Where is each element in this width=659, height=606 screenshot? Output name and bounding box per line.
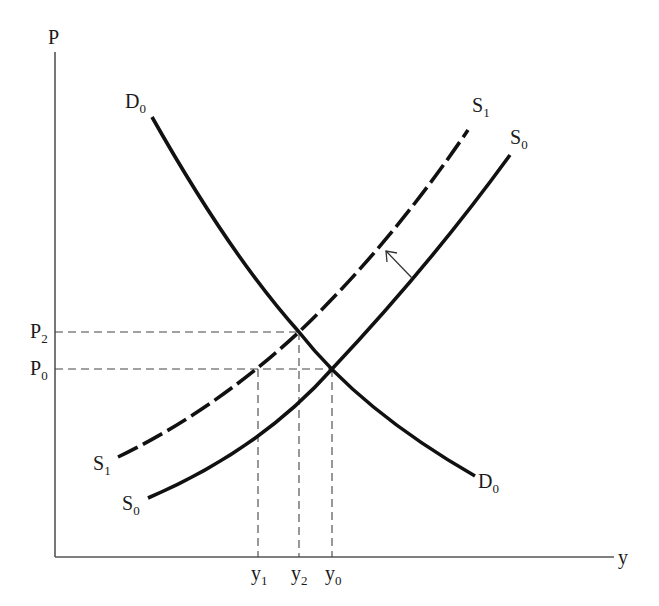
s0-top-label: S0 (510, 126, 528, 152)
demand-curve-d0 (152, 117, 475, 476)
supply-demand-diagram: P y D0 D0 S1 S1 S0 S0 P2 P0 y1 y2 y0 (0, 0, 659, 606)
d0-top-label: D0 (125, 90, 146, 116)
p2-label: P2 (30, 320, 48, 346)
quantity-axis-label: y (618, 546, 628, 569)
s1-top-label: S1 (472, 94, 490, 120)
y0-label: y0 (325, 562, 342, 588)
s0-bottom-label: S0 (122, 492, 140, 518)
y1-label: y1 (251, 562, 268, 588)
guide-lines (55, 332, 332, 557)
d0-bottom-label: D0 (478, 470, 499, 496)
supply-curve-s0 (148, 155, 510, 498)
shift-arrow-icon (386, 251, 412, 278)
y2-label: y2 (291, 562, 308, 588)
price-axis-label: P (48, 26, 59, 48)
p0-label: P0 (30, 357, 48, 383)
s1-bottom-label: S1 (93, 452, 111, 478)
